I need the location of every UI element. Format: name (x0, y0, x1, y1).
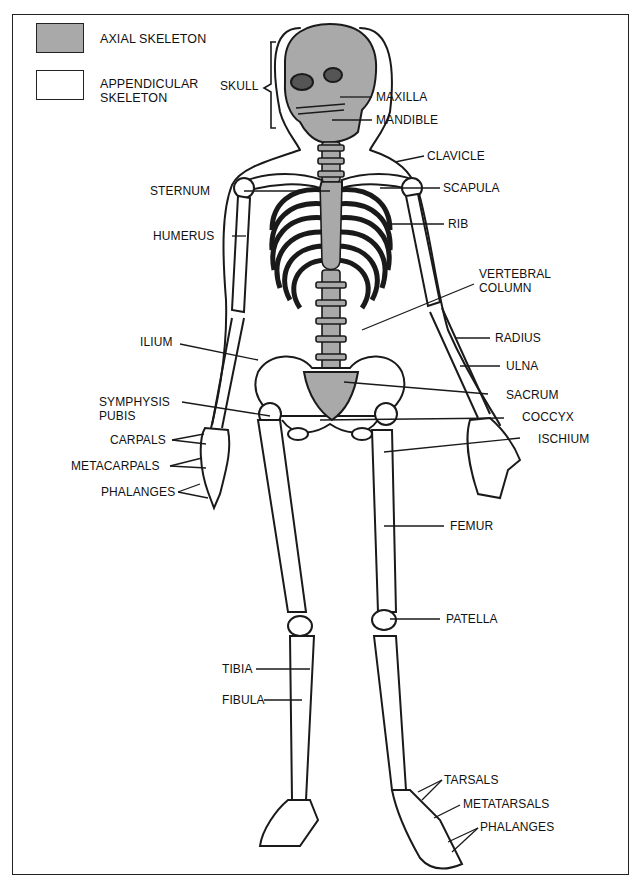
humerus-left (232, 196, 250, 312)
label-sacrum: SACRUM (506, 388, 559, 402)
label-fibula: FIBULA (222, 693, 265, 707)
label-metatarsals: METATARSALS (463, 797, 549, 811)
label-symphysis-pubis-line2: PUBIS (99, 409, 170, 423)
foot-left (260, 800, 318, 846)
label-scapula: SCAPULA (443, 181, 500, 195)
femoral-head-right (375, 403, 397, 425)
skull-brace (264, 42, 276, 128)
femur-right (372, 430, 396, 612)
label-mandible: MANDIBLE (376, 113, 438, 127)
label-tibia: TIBIA (222, 662, 253, 676)
label-vertebral-column-line2: COLUMN (479, 281, 551, 295)
label-coccyx: COCCYX (522, 410, 574, 424)
label-humerus: HUMERUS (153, 229, 214, 243)
label-symphysis-pubis-line1: SYMPHYSIS (99, 395, 170, 409)
label-rib: RIB (448, 217, 468, 231)
label-carpals: CARPALS (110, 433, 166, 447)
label-phalanges-foot: PHALANGES (480, 820, 554, 834)
skull (285, 24, 376, 143)
label-vertebral-column: VERTEBRAL COLUMN (479, 267, 551, 295)
orbit-left (291, 74, 313, 90)
femur-left (258, 420, 306, 612)
label-ulna: ULNA (506, 359, 538, 373)
label-sternum: STERNUM (150, 184, 210, 198)
label-clavicle: CLAVICLE (427, 149, 485, 163)
foot-right (392, 790, 462, 869)
label-metacarpals: METACARPALS (71, 459, 160, 473)
label-phalanges-hand: PHALANGES (101, 485, 175, 499)
hand-right (468, 418, 520, 498)
label-radius: RADIUS (495, 331, 541, 345)
label-vertebral-column-line1: VERTEBRAL (479, 267, 551, 281)
label-patella: PATELLA (446, 612, 498, 626)
sternum (320, 182, 342, 270)
label-femur: FEMUR (450, 519, 493, 533)
legs (258, 403, 462, 869)
label-ilium: ILIUM (140, 335, 173, 349)
forearm-right (430, 308, 490, 418)
tibia-left (290, 636, 314, 800)
label-symphysis-pubis: SYMPHYSIS PUBIS (99, 395, 170, 423)
label-maxilla: MAXILLA (376, 90, 427, 104)
label-tarsals: TARSALS (444, 773, 499, 787)
arms (201, 194, 520, 508)
label-ischium: ISCHIUM (538, 432, 589, 446)
patella-left (288, 616, 312, 636)
patella-right (372, 610, 396, 630)
orbit-right (324, 68, 342, 82)
label-skull: SKULL (220, 79, 259, 93)
humeral-head-left (234, 178, 254, 198)
tibia-right (374, 636, 406, 790)
